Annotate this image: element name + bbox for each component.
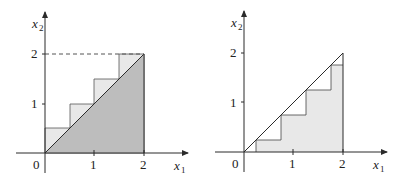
y-tick-2: 2: [230, 45, 237, 60]
x-tick-2: 2: [339, 156, 346, 171]
diagram-canvas: 0 1 2 1 2 x 1 x 2 0 1 2 1 2 x 1 x 2: [0, 0, 401, 181]
x-tick-1: 1: [90, 157, 97, 172]
y-axis-sub: 2: [39, 23, 44, 33]
y-tick-1: 1: [230, 95, 237, 110]
x-axis-label: x: [173, 158, 180, 173]
y-tick-1: 1: [31, 96, 38, 111]
y-tick-2: 2: [31, 46, 38, 61]
x-axis-sub: 1: [181, 165, 186, 175]
x-tick-1: 1: [289, 156, 296, 171]
origin-label: 0: [232, 156, 239, 171]
y-axis-label: x: [31, 16, 38, 31]
y-axis-label: x: [230, 15, 237, 30]
x-axis-sub: 1: [380, 164, 385, 174]
x-tick-2: 2: [140, 157, 147, 172]
lower-steps-region: [256, 65, 343, 152]
left-panel: 0 1 2 1 2 x 1 x 2: [16, 12, 188, 175]
x-axis-label: x: [372, 157, 379, 172]
y-axis-sub: 2: [238, 22, 243, 32]
right-panel: 0 1 2 1 2 x 1 x 2: [215, 11, 387, 174]
origin-label: 0: [33, 157, 40, 172]
